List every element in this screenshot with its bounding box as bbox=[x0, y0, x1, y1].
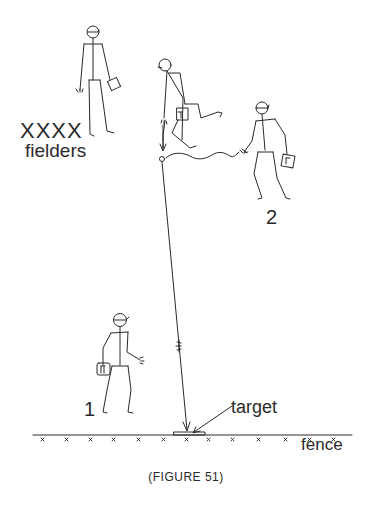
fence-x-marks bbox=[41, 438, 335, 441]
player-2-label: 2 bbox=[266, 206, 277, 229]
target-box bbox=[174, 432, 205, 435]
fence-label: fence bbox=[301, 435, 343, 455]
target-label: target bbox=[231, 397, 277, 418]
figure-caption: (FIGURE 51) bbox=[0, 470, 372, 484]
throw-line-to-target bbox=[162, 162, 187, 430]
player-1-label: 1 bbox=[84, 398, 95, 421]
ball-icon bbox=[160, 157, 165, 162]
fielder-running-figure bbox=[158, 59, 222, 148]
figure-diagram bbox=[0, 0, 372, 507]
player-1-figure bbox=[97, 314, 144, 414]
target-pointer-arrow bbox=[194, 406, 232, 432]
fielders-label: fielders bbox=[25, 140, 86, 162]
player-2-figure bbox=[244, 102, 295, 199]
throw-path-wavy bbox=[166, 152, 239, 159]
